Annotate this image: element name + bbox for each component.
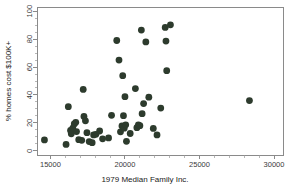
data-point <box>145 94 152 101</box>
data-point <box>73 128 80 135</box>
y-tick-label-80: 80 <box>25 35 34 43</box>
data-point <box>89 139 96 146</box>
data-point <box>136 122 143 129</box>
data-point <box>41 137 48 144</box>
x-axis-title: 1979 Median Family Inc. <box>101 175 188 184</box>
data-point <box>154 131 161 138</box>
data-point <box>119 72 126 79</box>
data-point <box>108 112 115 119</box>
data-point <box>150 125 157 132</box>
data-point <box>138 27 145 34</box>
x-tick-label-30000: 30000 <box>264 160 285 169</box>
data-point <box>78 137 85 144</box>
y-tick-label-60: 60 <box>25 63 34 71</box>
data-point <box>122 121 129 128</box>
data-point <box>163 38 170 45</box>
x-tick-label-20000: 20000 <box>115 160 136 169</box>
y-tick-label-100: 100 <box>25 5 34 18</box>
x-axis-ticks: 15000200002500030000 <box>40 155 284 169</box>
data-point <box>246 97 253 104</box>
data-point <box>65 103 72 110</box>
data-point <box>163 67 170 74</box>
data-point <box>167 21 174 28</box>
y-axis-ticks: 020406080100 <box>25 5 37 153</box>
data-point <box>96 128 103 135</box>
data-point <box>99 135 106 142</box>
plot-canvas: 020406080100 15000200002500030000 1979 M… <box>0 0 291 188</box>
data-point <box>113 37 120 44</box>
data-point <box>140 100 147 107</box>
data-point <box>142 39 149 46</box>
data-point <box>132 85 139 92</box>
scatter-plot-figure: 020406080100 15000200002500030000 1979 M… <box>0 0 291 188</box>
data-point <box>157 105 164 112</box>
data-point <box>139 110 146 117</box>
data-point <box>105 135 112 142</box>
data-points-layer <box>41 21 253 147</box>
data-point <box>123 138 130 145</box>
data-point <box>116 57 123 64</box>
data-point <box>84 129 91 136</box>
data-point <box>80 86 87 93</box>
data-point <box>120 112 127 119</box>
x-tick-label-15000: 15000 <box>40 160 61 169</box>
data-point <box>127 130 134 137</box>
data-point <box>63 141 70 148</box>
x-tick-label-25000: 25000 <box>189 160 210 169</box>
data-point <box>82 117 89 124</box>
y-tick-label-0: 0 <box>25 149 34 153</box>
y-tick-label-40: 40 <box>25 91 34 99</box>
y-tick-label-20: 20 <box>25 119 34 127</box>
y-axis-title: % homes cost $100K+ <box>4 41 13 122</box>
data-point <box>72 119 79 126</box>
data-point <box>122 93 129 100</box>
